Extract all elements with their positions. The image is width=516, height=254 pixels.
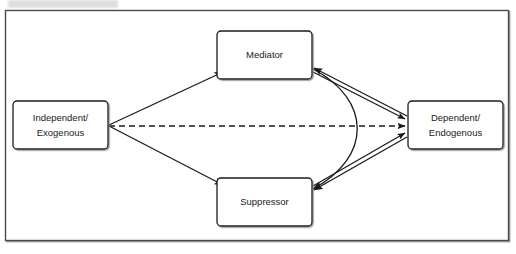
- independent-exogenous-node[interactable]: Independent/ Exogenous: [13, 101, 108, 149]
- independent-exogenous-box: [13, 101, 108, 149]
- suppressor-label: Suppressor: [240, 196, 289, 207]
- dependent-endogenous-node[interactable]: Dependent/ Endogenous: [408, 101, 503, 149]
- path-diagram: Independent/ Exogenous Mediator Suppress…: [0, 0, 516, 254]
- independent-exogenous-label-line2: Exogenous: [37, 127, 85, 138]
- dependent-endogenous-label-line1: Dependent/: [431, 112, 480, 123]
- suppressor-node[interactable]: Suppressor: [217, 178, 312, 226]
- mediator-node[interactable]: Mediator: [217, 31, 312, 79]
- dependent-endogenous-label-line2: Endogenous: [429, 127, 483, 138]
- dependent-endogenous-box: [408, 101, 503, 149]
- mediator-label: Mediator: [246, 49, 283, 60]
- independent-exogenous-label-line1: Independent/: [33, 112, 89, 123]
- figure-root: Independent/ Exogenous Mediator Suppress…: [0, 0, 516, 254]
